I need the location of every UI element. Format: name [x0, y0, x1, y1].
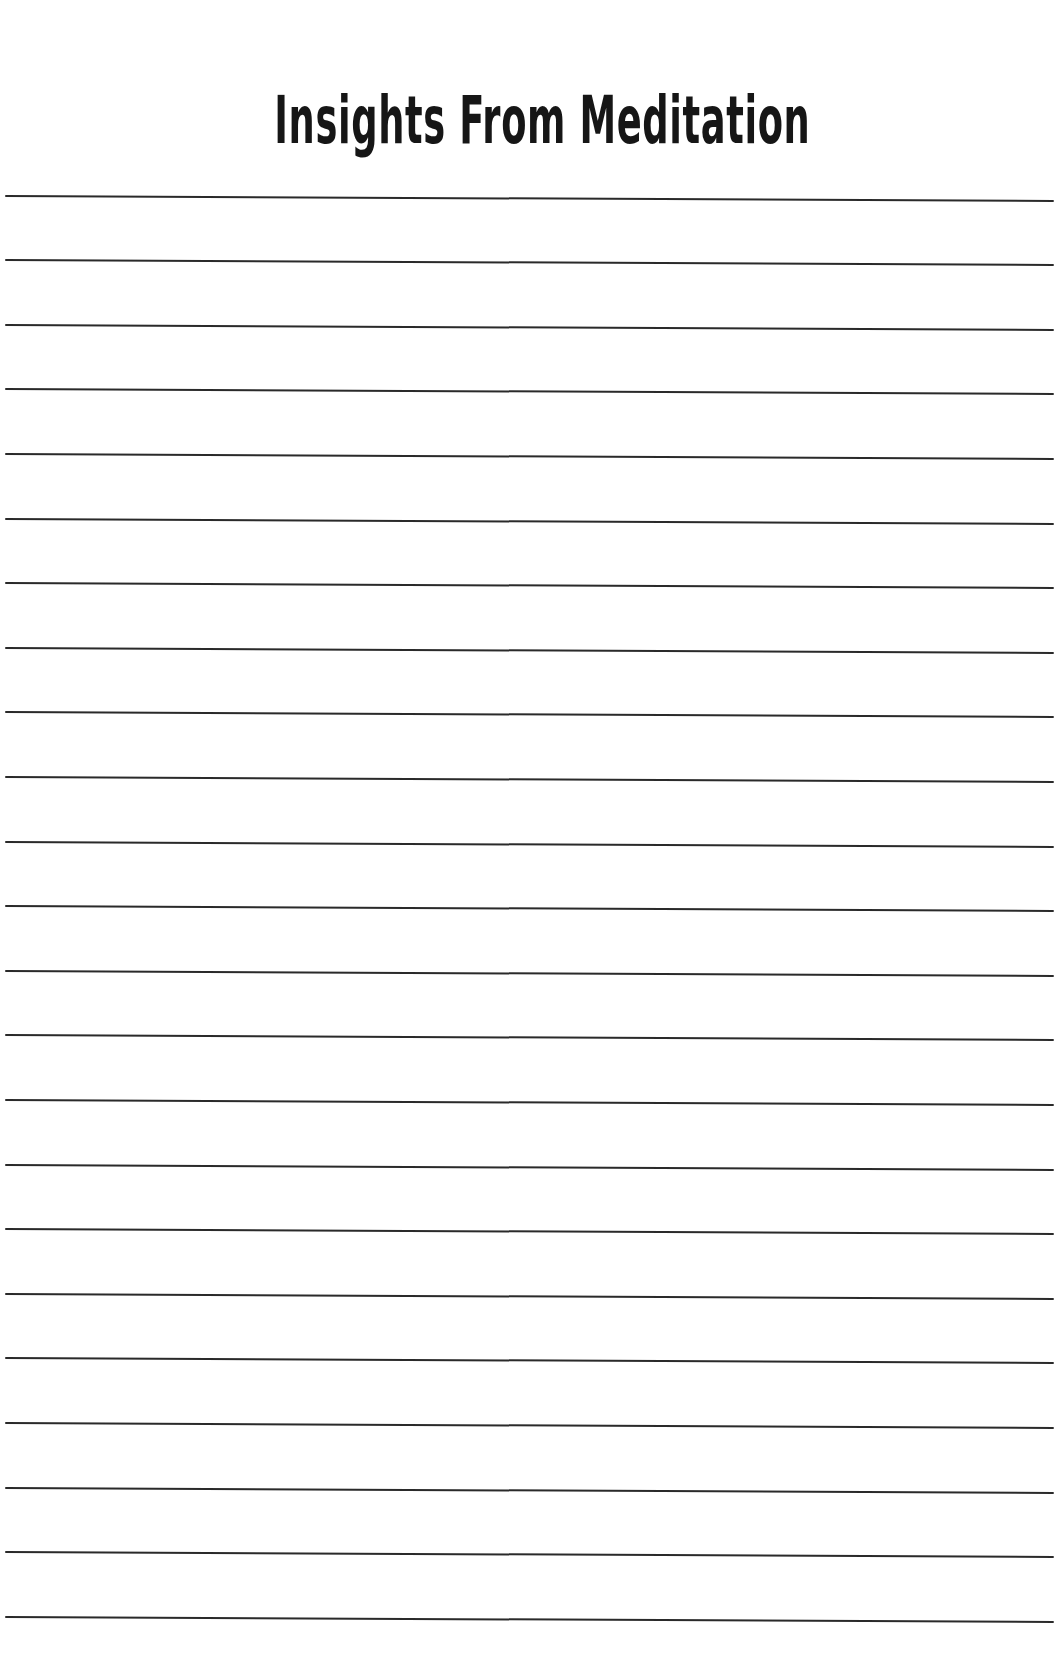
- ruled-line: [5, 1034, 1054, 1041]
- ruled-line: [5, 1293, 1054, 1300]
- ruled-line: [5, 1487, 1054, 1494]
- ruled-line: [5, 1228, 1054, 1235]
- ruled-line: [5, 324, 1054, 331]
- ruled-line: [5, 1357, 1054, 1364]
- ruled-line: [5, 905, 1054, 912]
- ruled-line: [5, 711, 1054, 718]
- ruled-line: [5, 518, 1054, 525]
- journal-page: Insights From Meditation: [0, 0, 1059, 1669]
- ruled-line: [5, 647, 1054, 654]
- ruled-line: [5, 582, 1054, 589]
- ruled-line: [5, 1164, 1054, 1171]
- ruled-line: [5, 776, 1054, 783]
- ruled-line: [5, 1616, 1054, 1623]
- ruled-line: [5, 1099, 1054, 1106]
- ruled-line: [5, 453, 1054, 460]
- ruled-lines: [0, 0, 1059, 1669]
- ruled-line: [5, 970, 1054, 977]
- ruled-line: [5, 1551, 1054, 1558]
- ruled-line: [5, 388, 1054, 395]
- ruled-line: [5, 259, 1054, 266]
- ruled-line: [5, 841, 1054, 848]
- ruled-line: [5, 1422, 1054, 1429]
- ruled-line: [5, 195, 1054, 202]
